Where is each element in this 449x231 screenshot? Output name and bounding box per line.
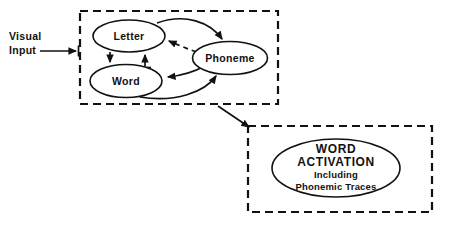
node-phoneme-label: Phoneme: [205, 52, 254, 64]
visual-input-label-line2: Input: [9, 44, 36, 56]
box-to-box-arrow: [218, 106, 249, 127]
diagram-page: Visual Input Letter Word Phoneme WORD AC…: [0, 0, 449, 231]
diagram-canvas: Visual Input Letter Word Phoneme WORD AC…: [0, 0, 449, 231]
visual-input-label-line1: Visual: [9, 30, 42, 42]
word-activation-line3: Including: [314, 169, 358, 180]
word-activation-line4: Phonemic Traces: [295, 181, 376, 192]
node-word-label: Word: [112, 75, 140, 87]
node-letter-label: Letter: [114, 30, 145, 42]
word-activation-line2: ACTIVATION: [297, 155, 375, 169]
letter-to-phoneme-arrow: [157, 19, 222, 39]
word-activation-line1: WORD: [316, 142, 356, 156]
